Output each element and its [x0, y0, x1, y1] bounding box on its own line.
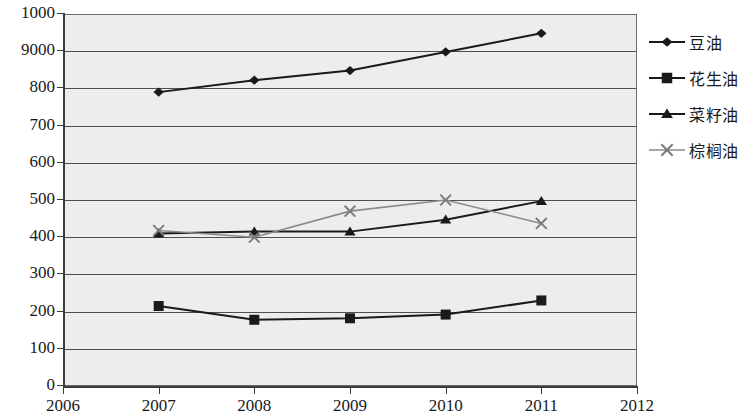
legend-label: 菜籽油 [686, 102, 739, 126]
gridline [65, 312, 636, 313]
x-axis-tick-label: 2008 [219, 396, 289, 416]
gridline [65, 88, 636, 89]
y-axis-tick-label: 1000 [0, 3, 55, 23]
y-axis-tick-label: 300 [0, 263, 55, 283]
legend-item[interactable]: 棕榈油 [648, 132, 740, 168]
legend-item[interactable]: 菜籽油 [648, 96, 740, 132]
legend-label: 豆油 [686, 30, 722, 54]
y-axis-tick-label: 9000 [0, 40, 55, 60]
x-axis-tick-label: 2010 [411, 396, 481, 416]
y-axis-tick-label: 0 [0, 375, 55, 395]
gridline [65, 51, 636, 52]
x-axis-tick-label: 2012 [602, 396, 672, 416]
legend-label: 棕榈油 [686, 138, 739, 162]
gridline [65, 163, 636, 164]
x-axis-tick [63, 387, 64, 394]
y-axis-tick-label: 100 [0, 338, 55, 358]
y-axis-tick-label: 600 [0, 152, 55, 172]
gridline [65, 200, 636, 201]
y-axis-tick-label: 400 [0, 226, 55, 246]
gridline [65, 126, 636, 127]
x-axis-tick [350, 387, 351, 394]
y-axis-line [63, 13, 65, 388]
x-axis-tick-label: 2009 [315, 396, 385, 416]
line-chart: 010020030040050060070080090001000 200620… [0, 0, 740, 417]
y-axis-tick-label: 800 [0, 77, 55, 97]
y-axis-tick-label: 500 [0, 189, 55, 209]
x-axis-tick-label: 2006 [28, 396, 98, 416]
plot-area [63, 14, 637, 386]
x-axis-tick-label: 2011 [506, 396, 576, 416]
legend-marker-square-icon [648, 68, 686, 88]
gridline [65, 274, 636, 275]
legend-item[interactable]: 花生油 [648, 60, 740, 96]
x-axis-tick [159, 387, 160, 394]
gridline [65, 14, 636, 15]
legend-marker-diamond-icon [648, 32, 686, 52]
legend-marker-cross-icon [648, 140, 686, 160]
x-axis-tick [541, 387, 542, 394]
x-axis-tick [254, 387, 255, 394]
x-axis-tick-label: 2007 [124, 396, 194, 416]
y-axis-tick-label: 200 [0, 301, 55, 321]
legend-marker-triangle-icon [648, 104, 686, 124]
gridline [65, 237, 636, 238]
x-axis-tick [637, 387, 638, 394]
legend-item[interactable]: 豆油 [648, 24, 740, 60]
y-axis-tick-label: 700 [0, 115, 55, 135]
gridline [65, 349, 636, 350]
x-axis-tick [446, 387, 447, 394]
legend-label: 花生油 [686, 66, 739, 90]
chart-legend: 豆油花生油菜籽油棕榈油 [648, 24, 740, 168]
